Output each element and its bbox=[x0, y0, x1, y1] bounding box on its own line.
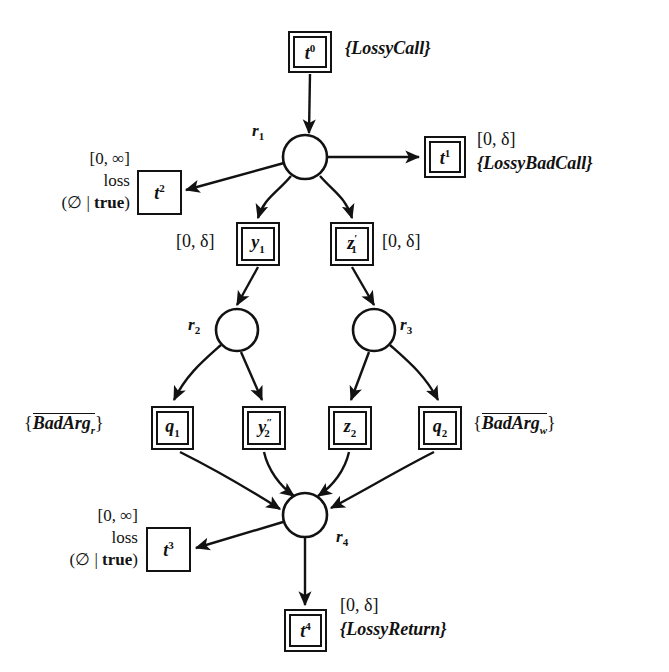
transition-q2-inner: q2 bbox=[423, 411, 457, 445]
transition-t1-label: t1 bbox=[440, 148, 451, 167]
annotation-q2-set-body: BadArg bbox=[482, 413, 540, 433]
place-r1 bbox=[283, 135, 327, 179]
arc-z1p-to-r3 bbox=[352, 267, 374, 305]
annotation-t2-block: [0, ∞] loss (∅ | true) bbox=[0, 148, 130, 213]
transition-y1-inner: y1 bbox=[241, 227, 275, 261]
annotation-t3-block: [0, ∞] loss (∅ | true) bbox=[0, 505, 138, 570]
annotation-y1-interval: [0, δ] bbox=[176, 232, 214, 251]
annotation-q2-set: {BadArgw} bbox=[473, 413, 556, 436]
place-r4 bbox=[283, 493, 327, 537]
transition-t3-label: t3 bbox=[163, 540, 174, 559]
transition-z2-inner: z2 bbox=[333, 411, 367, 445]
annotation-t2-guard-true: true bbox=[94, 193, 124, 212]
annotation-t2-interval: [0, ∞] bbox=[0, 148, 130, 170]
net-arcs-layer bbox=[0, 0, 669, 672]
transition-z1-prime-inner: z′1 bbox=[335, 227, 369, 261]
annotation-q2-set-open: { bbox=[473, 413, 482, 433]
transition-q1-label: q1 bbox=[165, 417, 180, 439]
transition-q1-inner: q1 bbox=[156, 411, 189, 445]
annotation-t1-interval: [0, δ] bbox=[477, 130, 515, 149]
arc-r1-to-z1p bbox=[320, 176, 352, 218]
transition-t4[interactable]: t4 bbox=[284, 609, 327, 652]
annotation-q2-set-sub: w bbox=[540, 424, 547, 436]
transition-t2[interactable]: t2 bbox=[137, 170, 182, 215]
transition-t2-label: t2 bbox=[154, 183, 165, 202]
transition-t3-inner: t3 bbox=[148, 529, 189, 570]
arc-r2-to-y2pp bbox=[241, 352, 262, 400]
arc-r3-to-q2 bbox=[390, 345, 438, 400]
arc-r1-to-y1 bbox=[258, 176, 291, 218]
annotation-t1-set: {LossyBadCall} bbox=[477, 154, 593, 173]
transition-y2-doubleprime-inner: y″2 bbox=[247, 411, 281, 445]
place-label-r3: r3 bbox=[400, 316, 412, 337]
annotation-t2-loss: loss bbox=[0, 170, 130, 192]
transition-q2-label: q2 bbox=[433, 417, 448, 439]
transition-t1[interactable]: t1 bbox=[424, 136, 466, 178]
transition-t0-inner: t0 bbox=[293, 36, 327, 68]
annotation-t2-guard: (∅ | true) bbox=[0, 192, 130, 214]
transition-y1[interactable]: y1 bbox=[236, 222, 280, 266]
annotation-t4-set: {LossyReturn} bbox=[340, 620, 447, 639]
arc-r4-to-t3 bbox=[196, 522, 283, 548]
place-r3 bbox=[353, 309, 395, 351]
annotation-t2-guard-open: (∅ | bbox=[62, 193, 95, 212]
transition-t0-label: t0 bbox=[305, 43, 316, 62]
transition-t3[interactable]: t3 bbox=[146, 527, 191, 572]
annotation-q1-set-close: } bbox=[95, 413, 104, 433]
annotation-q1-set: {BadArgr} bbox=[24, 413, 104, 436]
annotation-t3-guard-open: (∅ | bbox=[70, 550, 103, 569]
transition-q1[interactable]: q1 bbox=[151, 406, 194, 450]
arc-y2pp-to-r4 bbox=[264, 452, 294, 496]
annotation-t3-guard-true: true bbox=[102, 550, 132, 569]
arc-y1-to-r2 bbox=[237, 267, 258, 305]
annotation-t3-guard-close: ) bbox=[132, 550, 138, 569]
annotation-t4-interval: [0, δ] bbox=[340, 596, 378, 615]
place-label-r1: r1 bbox=[252, 122, 264, 143]
transition-t1-inner: t1 bbox=[429, 141, 461, 173]
transition-z1-prime[interactable]: z′1 bbox=[330, 222, 374, 266]
place-label-r2: r2 bbox=[188, 316, 200, 337]
arc-t0-to-r1 bbox=[309, 74, 310, 133]
annotation-t3-loss: loss bbox=[0, 527, 138, 549]
annotation-q2-set-close: } bbox=[547, 413, 556, 433]
transition-z2[interactable]: z2 bbox=[328, 406, 372, 450]
annotation-q1-set-open: { bbox=[24, 413, 33, 433]
annotation-q1-set-body: BadArg bbox=[33, 413, 91, 433]
arc-r3-to-z2 bbox=[351, 352, 369, 400]
annotation-t3-guard: (∅ | true) bbox=[0, 549, 138, 571]
transition-y2-doubleprime[interactable]: y″2 bbox=[242, 406, 286, 450]
place-label-r4: r4 bbox=[336, 528, 348, 549]
transition-y2-doubleprime-label: y″2 bbox=[258, 417, 270, 440]
petri-net-diagram: r1 r2 r3 r4 t0 t1 t2 y1 z′1 bbox=[0, 0, 669, 672]
annotation-t2-guard-close: ) bbox=[124, 193, 130, 212]
transition-q2[interactable]: q2 bbox=[418, 406, 462, 450]
arc-q1-to-r4 bbox=[180, 452, 280, 509]
arc-z2-to-r4 bbox=[318, 452, 349, 496]
annotation-t0-set: {LossyCall} bbox=[345, 39, 431, 58]
transition-z2-label: z2 bbox=[344, 417, 357, 439]
arc-r1-to-t2 bbox=[186, 163, 284, 190]
transition-y1-label: y1 bbox=[251, 233, 265, 255]
transition-z1-prime-label: z′1 bbox=[347, 233, 357, 256]
annotation-z1-prime-interval: [0, δ] bbox=[382, 232, 420, 251]
annotation-t3-interval: [0, ∞] bbox=[0, 505, 138, 527]
place-r2 bbox=[216, 309, 258, 351]
transition-t4-label: t4 bbox=[300, 621, 311, 640]
transition-t0[interactable]: t0 bbox=[288, 31, 332, 73]
transition-t2-inner: t2 bbox=[139, 172, 180, 213]
transition-t4-inner: t4 bbox=[289, 614, 322, 647]
arc-r2-to-q1 bbox=[174, 345, 221, 400]
